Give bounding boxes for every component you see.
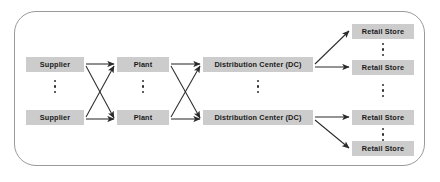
node-label: Supplier: [40, 113, 70, 122]
dot: [142, 80, 144, 82]
node-plant-1: Plant: [117, 57, 169, 72]
dot: [54, 91, 56, 93]
node-supplier-1: Supplier: [26, 57, 84, 72]
dot: [382, 128, 384, 130]
dot: [54, 80, 56, 82]
edge-dc1-retail1: [315, 31, 349, 64]
dot: [382, 43, 384, 45]
node-label: Supplier: [40, 60, 70, 69]
dot: [382, 89, 384, 91]
supply-chain-diagram: Supplier Supplier Plant Plant Distributi…: [0, 0, 440, 182]
dot: [382, 54, 384, 56]
dot: [382, 48, 384, 50]
dot: [257, 80, 259, 82]
edge-dc2-retail4: [315, 120, 349, 148]
dot: [54, 85, 56, 87]
dot: [142, 91, 144, 93]
node-label: Distribution Center (DC): [214, 60, 301, 69]
ellipsis-supplier: [50, 80, 60, 93]
node-distribution-center-2: Distribution Center (DC): [203, 110, 313, 125]
node-retail-store-2: Retail Store: [352, 60, 414, 75]
node-plant-2: Plant: [117, 110, 169, 125]
node-label: Plant: [134, 60, 153, 69]
ellipsis-retail-top: [378, 43, 388, 56]
node-label: Retail Store: [362, 113, 404, 122]
node-supplier-2: Supplier: [26, 110, 84, 125]
dot: [382, 95, 384, 97]
dot: [382, 133, 384, 135]
node-label: Plant: [134, 113, 153, 122]
dot: [257, 91, 259, 93]
node-retail-store-3: Retail Store: [352, 110, 414, 125]
node-label: Retail Store: [362, 144, 404, 153]
node-retail-store-4: Retail Store: [352, 141, 414, 156]
node-retail-store-1: Retail Store: [352, 24, 414, 39]
ellipsis-retail-bottom: [378, 128, 388, 141]
node-distribution-center-1: Distribution Center (DC): [203, 57, 313, 72]
node-label: Retail Store: [362, 27, 404, 36]
node-label: Distribution Center (DC): [214, 113, 301, 122]
dot: [382, 84, 384, 86]
dot: [142, 85, 144, 87]
ellipsis-distribution-center: [253, 80, 263, 93]
ellipsis-retail-middle: [378, 84, 388, 97]
node-label: Retail Store: [362, 63, 404, 72]
ellipsis-plant: [138, 80, 148, 93]
dot: [257, 85, 259, 87]
